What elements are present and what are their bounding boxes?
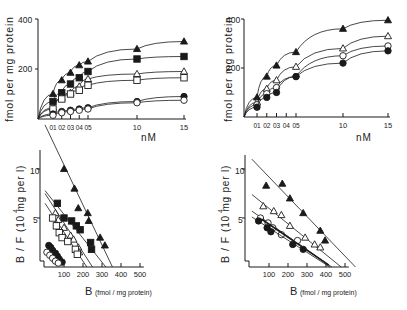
filled-triangle-marker [97, 234, 104, 240]
x-tick-label: 400 [115, 270, 128, 279]
open-square-marker [65, 238, 71, 244]
y-axis-label-bottom-left: B / F [14, 236, 26, 263]
open-circle-marker [67, 108, 73, 114]
filled-square-marker [181, 53, 187, 59]
x-tick-label: 100 [263, 270, 276, 279]
open-square-marker [76, 87, 82, 93]
filled-square-marker [88, 246, 94, 252]
filled-circle-marker [254, 104, 260, 110]
filled-circle-marker [385, 48, 391, 54]
x-axis-B-bottom-right: B [290, 285, 297, 297]
open-square-marker [49, 215, 55, 221]
x-tick-label: 10 [339, 121, 347, 130]
y-axis-units-bottom-right: (10 mg per l) [220, 165, 231, 232]
open-circle-marker [181, 97, 187, 103]
y-tick-400-top-right: 400 [226, 15, 240, 25]
x-tick-label: 400 [320, 270, 333, 279]
axes [245, 155, 349, 267]
filled-triangle-marker [58, 77, 65, 83]
x-tick-label: 02 [263, 122, 271, 129]
x-tick-label: 05 [84, 124, 92, 131]
open-triangle-marker [302, 234, 309, 240]
x-tick-label: 15 [180, 123, 188, 132]
open-circle-marker [59, 110, 65, 116]
filled-square-marker [85, 68, 91, 74]
x-tick-label: 05 [292, 122, 300, 129]
y-tick-5-bottom-right: 5 [238, 215, 243, 225]
filled-triangle-marker [273, 62, 280, 68]
x-tick-label: 200 [77, 270, 90, 279]
open-triangle-marker [384, 32, 391, 38]
x-tick-label: 200 [282, 270, 295, 279]
x-tick-label: 100 [58, 270, 71, 279]
open-triangle-marker [273, 77, 280, 83]
x-tick-label: 10 [133, 123, 141, 132]
filled-circle-marker [293, 73, 299, 79]
open-circle-marker [85, 106, 91, 112]
x-tick-label: 02 [58, 124, 66, 131]
x-axis-B-bottom-left: B [85, 285, 92, 297]
y-tick-10-bottom-left: 10 [30, 166, 40, 176]
open-square-marker [74, 251, 80, 257]
filled-square-marker [134, 56, 140, 62]
filled-square-marker [67, 81, 73, 87]
filled-circle-marker [264, 94, 270, 100]
x-tick-label: 500 [339, 270, 352, 279]
y-tick-200-top-right: 200 [226, 63, 240, 73]
filled-triangle-marker [180, 38, 187, 44]
filled-triangle-marker [292, 48, 299, 54]
x-axis-label-top-right: nM [356, 132, 372, 143]
open-square-marker [134, 77, 140, 83]
filled-square-marker [54, 200, 60, 206]
y-axis-label-bottom-right: B / F [219, 236, 231, 263]
filled-triangle-marker [85, 217, 92, 223]
y-tick-5-bottom-left: 5 [33, 215, 38, 225]
open-square-marker [85, 82, 91, 88]
filled-triangle-marker [60, 165, 67, 171]
x-tick-label: 300 [96, 270, 109, 279]
filled-square-marker [76, 75, 82, 81]
open-triangle-marker [339, 45, 346, 51]
x-axis-units-bottom-right: (fmol / mg protein) [300, 289, 357, 297]
x-tick-label: 300 [301, 270, 314, 279]
x-axis-label-top-left: nM [141, 132, 157, 143]
filled-circle-fit-line-bold [261, 219, 328, 265]
x-axis-units-bottom-left: (fmol / mg protein) [95, 289, 152, 297]
filled-circle-marker [273, 89, 279, 95]
y-axis-exp-bottom-left: 4 [12, 209, 19, 213]
x-tick-label: 03 [67, 124, 75, 131]
open-circle-marker [55, 260, 61, 266]
open-square-marker [67, 91, 73, 97]
x-tick-label: 04 [283, 122, 291, 129]
filled-circle-marker [340, 60, 346, 66]
y-axis-label-top-left: fmol per mg protein [3, 16, 15, 122]
y-tick-10-bottom-right: 10 [235, 166, 245, 176]
filled-triangle-marker [75, 205, 82, 211]
filled-triangle-marker [71, 185, 78, 191]
open-triangle-marker [180, 68, 187, 74]
filled-triangle-marker [84, 58, 91, 64]
x-tick-label: 500 [134, 270, 147, 279]
filled-triangle-marker [384, 17, 391, 23]
open-square-marker [53, 223, 59, 229]
x-tick-label: 04 [76, 124, 84, 131]
filled-triangle-marker [263, 73, 270, 79]
filled-triangle-curve [244, 20, 388, 117]
panel-top-right: 01020304051015 [241, 17, 392, 130]
open-square-marker [59, 96, 65, 102]
filled-triangle-marker [339, 25, 346, 31]
filled-triangle-marker [279, 180, 286, 186]
panel-bottom-left: 100200300400500 [37, 125, 146, 279]
open-circle-curve [244, 46, 388, 117]
y-axis-units-bottom-left: (10 mg per l) [15, 165, 26, 232]
figure: 01020304051015 01020304051015 1002003004… [0, 0, 407, 310]
x-tick-label: 15 [384, 121, 392, 130]
open-circle-marker [340, 53, 346, 59]
y-tick-400-top-left: 400 [18, 15, 32, 25]
filled-square-marker [61, 215, 67, 221]
filled-circle-marker [255, 218, 261, 224]
filled-triangle-marker [67, 69, 74, 75]
y-tick-200-top-left: 200 [18, 64, 32, 74]
filled-triangle-marker [263, 182, 270, 188]
filled-square-marker [77, 227, 83, 233]
